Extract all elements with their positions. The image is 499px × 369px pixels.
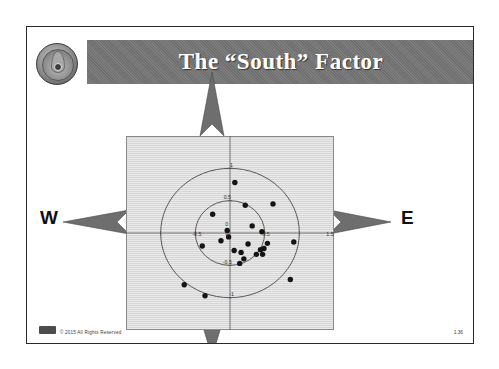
- axis-tick-label: 1.5: [326, 231, 333, 237]
- data-point: [265, 241, 270, 246]
- compass-label-east: E: [401, 207, 414, 229]
- data-point: [218, 238, 223, 243]
- data-point: [238, 250, 243, 255]
- data-point: [249, 223, 254, 228]
- axis-tick-label: -0.5: [192, 231, 201, 237]
- footer-copyright: © 2015 All Rights Reserved: [60, 330, 121, 335]
- data-point: [210, 212, 215, 217]
- scatter-series: [182, 180, 297, 299]
- scatter-chart: 10.500-0.50.5-0.5-11.5: [126, 136, 334, 330]
- data-point: [182, 282, 187, 287]
- data-point: [259, 229, 264, 234]
- data-point: [202, 293, 207, 298]
- data-point: [254, 252, 259, 257]
- page-number: 1.36: [454, 330, 463, 335]
- data-point: [200, 243, 205, 248]
- data-point: [260, 252, 265, 257]
- data-point: [270, 201, 275, 206]
- footer-logo-icon: [39, 326, 56, 334]
- arrow-east-icon: [329, 205, 391, 239]
- axis-tick-label: -0.5: [223, 259, 232, 265]
- data-point: [288, 277, 293, 282]
- data-point: [245, 241, 250, 246]
- axis-tick-label: 0.5: [224, 194, 231, 200]
- compass-label-west: W: [40, 207, 58, 229]
- axis-tick-label: 0: [225, 221, 228, 227]
- data-point: [232, 180, 237, 185]
- arrow-west-icon: [63, 205, 131, 239]
- title-banner: The “South” Factor: [87, 40, 474, 84]
- data-point: [243, 202, 248, 207]
- plot-svg: 10.500-0.50.5-0.5-11.5: [126, 136, 334, 330]
- axis-tick-label: 1: [230, 162, 233, 168]
- data-point: [241, 256, 246, 261]
- arrow-north-icon: [195, 72, 229, 138]
- data-point: [261, 246, 266, 251]
- data-point: [237, 261, 242, 266]
- organization-seal-icon: [36, 43, 78, 85]
- axis-tick-label: -1: [229, 291, 234, 297]
- slide-frame: The “South” Factor W E 10.500-0.50.5-0.5…: [26, 26, 474, 344]
- data-point: [226, 234, 231, 239]
- data-point: [291, 239, 296, 244]
- data-point: [231, 248, 236, 253]
- seal-center-icon: [54, 63, 62, 71]
- data-point: [225, 228, 230, 233]
